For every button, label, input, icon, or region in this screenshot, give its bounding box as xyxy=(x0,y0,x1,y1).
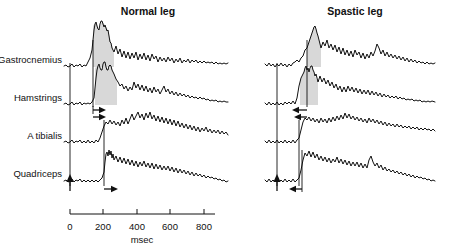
axis-tick-label-800: 800 xyxy=(196,221,212,232)
trace-hamstrings-spastic xyxy=(265,66,435,105)
trace-quadriceps-normal xyxy=(64,150,228,182)
latency-arrow-hamstrings-spastic xyxy=(292,107,307,113)
trace-hamstrings-normal xyxy=(64,62,228,105)
trace-quadriceps-spastic xyxy=(265,151,435,182)
axis-tick-label-600: 600 xyxy=(162,221,178,232)
panel-title-normal: Normal leg xyxy=(121,5,175,17)
stimulus-arrow-normal xyxy=(66,174,73,191)
burst-shade-gastrocnemius-spastic xyxy=(307,26,321,67)
axis-tick-label-400: 400 xyxy=(129,221,145,232)
latency-arrow-quadriceps-normal xyxy=(104,186,118,192)
axis-title-msec: msec xyxy=(131,234,154,245)
panel-spastic-leg xyxy=(265,26,435,192)
muscle-label-a-tibialis: A tibialis xyxy=(27,130,62,141)
latency-arrow-hamstrings-normal xyxy=(93,106,106,114)
latency-arrow-a-tibialis-spastic xyxy=(294,114,307,120)
axis-tick-label-0: 0 xyxy=(67,221,72,232)
muscle-label-quadriceps: Quadriceps xyxy=(13,168,62,179)
trace-gastrocnemius-spastic xyxy=(265,26,435,67)
panel-normal-leg xyxy=(64,21,228,192)
muscle-label-gastrocnemius: Gastrocnemius xyxy=(0,54,62,65)
trace-gastrocnemius-normal xyxy=(64,21,228,67)
latency-arrow-quadriceps-spastic xyxy=(289,186,302,192)
panel-title-spastic: Spastic leg xyxy=(327,5,382,17)
emg-plot-svg: Normal leg Spastic leg Gastrocnemius Ham… xyxy=(0,0,462,247)
trace-a-tibialis-spastic xyxy=(265,113,435,143)
muscle-label-hamstrings: Hamstrings xyxy=(14,92,62,103)
trace-a-tibialis-normal xyxy=(64,112,228,143)
stimulus-arrow-spastic xyxy=(273,174,280,191)
emg-figure: Normal leg Spastic leg Gastrocnemius Ham… xyxy=(0,0,462,247)
latency-arrow-a-tibialis-normal xyxy=(93,114,106,120)
axis-tick-label-200: 200 xyxy=(95,221,111,232)
time-axis: 0 200 400 600 800 msec xyxy=(67,209,215,245)
